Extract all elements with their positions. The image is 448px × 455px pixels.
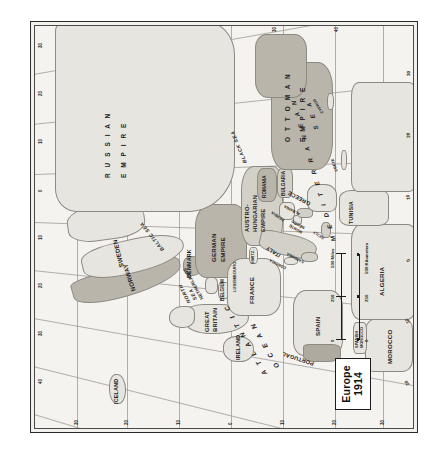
tick-right-0: 30: [273, 27, 278, 32]
island-crete: [341, 150, 347, 170]
tick-top-1: 30: [39, 331, 44, 336]
scale-km-tick-0: 0: [364, 340, 369, 342]
tick-left-2: 10: [177, 420, 182, 425]
tick-top-7: 30: [39, 43, 44, 48]
scale-miles-tick-0: 0: [330, 340, 335, 342]
landmass-tunisia: [339, 190, 389, 226]
scale-miles-label: 500 Miles: [330, 248, 335, 268]
landmass-netherlands: [205, 277, 218, 294]
map-frame: R U S S I A N E M P I R E O T T O M A N …: [30, 21, 418, 433]
label-austro-line2: HUNGARIAN: [253, 195, 259, 232]
label-german-empire-line1: GERMAN: [211, 233, 217, 262]
scale-km-label: 500 Kilometers: [364, 243, 369, 274]
label-great-britain-line1: GREAT: [205, 308, 211, 332]
label-tunisia: TUNISIA: [349, 201, 354, 224]
landmass-russian-empire: [55, 25, 235, 212]
label-german-empire-line2: EMPIRE: [220, 233, 226, 262]
tick-left-6: 30: [381, 420, 386, 425]
label-algeria: ALGERIA: [379, 267, 385, 296]
label-belgium: BELGIUM: [221, 279, 226, 301]
tick-bottom-3: 10: [406, 194, 411, 200]
tick-bottom-4: 20: [407, 133, 412, 138]
label-great-britain-line2: BRITAIN: [213, 308, 219, 332]
scale-miles-tick-1: 250: [330, 295, 335, 302]
label-switzerland: SWITZ.: [251, 249, 255, 264]
tick-left-3: 0: [229, 422, 234, 425]
map-page: R U S S I A N E M P I R E O T T O M A N …: [0, 0, 448, 455]
label-bulgaria: BULGARIA: [282, 171, 287, 196]
map-neatline: R U S S I A N E M P I R E O T T O M A N …: [34, 25, 414, 429]
label-iceland: ICELAND: [114, 379, 119, 404]
label-german-empire: GERMAN EMPIRE: [211, 233, 226, 262]
landmass-scotland: [169, 306, 195, 328]
scale-bar: 0 250 500 Miles 0 250 500 Kilometers: [331, 244, 377, 344]
map-title-cartouche: Europe 1914: [335, 358, 371, 410]
tick-left-0: 30: [75, 420, 80, 425]
island-cyprus: [327, 93, 334, 110]
label-russian-empire-line1: R U S S I A N: [105, 112, 111, 178]
tick-left-4: 10: [281, 420, 286, 425]
tick-top-6: 20: [39, 91, 44, 96]
label-austro-line3: EMPIRE: [261, 195, 267, 232]
label-austro-hungarian-empire: AUSTRO- HUNGARIAN EMPIRE: [245, 195, 266, 232]
tick-right-1: 40: [335, 27, 340, 32]
label-great-britain: GREAT BRITAIN: [205, 308, 219, 332]
map-title-line2: 1914: [353, 372, 365, 396]
label-russian-empire-line2: E M P I R E: [121, 112, 127, 178]
landmass-libya: [351, 82, 414, 192]
label-romania: ROMANIA: [263, 175, 268, 198]
label-france: FRANCE: [249, 277, 255, 304]
label-morocco: MOROCCO: [387, 330, 393, 364]
tick-top-2: 20: [39, 283, 44, 288]
label-spain: SPAIN: [315, 317, 321, 336]
tick-left-5: 20: [333, 420, 338, 425]
tick-left-1: 20: [125, 420, 130, 425]
label-russian-empire: R U S S I A N E M P I R E: [105, 112, 128, 178]
tick-top-5: 10: [39, 139, 44, 144]
label-luxembourg: LUXEMBOURG: [233, 261, 237, 292]
tick-top-3: 10: [39, 235, 44, 240]
tick-top-4: 0: [39, 189, 44, 192]
scale-km-tick-1: 250: [364, 295, 369, 302]
tick-top-0: 40: [39, 379, 44, 384]
tick-bottom-5: 30: [407, 71, 412, 76]
